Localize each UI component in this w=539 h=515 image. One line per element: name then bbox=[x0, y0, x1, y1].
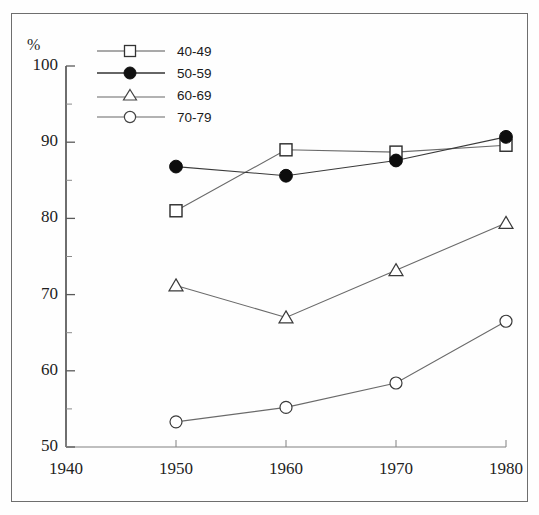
marker-open-triangle bbox=[389, 264, 403, 276]
y-axis-ticks bbox=[66, 66, 75, 447]
series-line-70-79 bbox=[176, 321, 506, 422]
x-tick-label-1980: 1980 bbox=[471, 459, 539, 479]
y-tick-label-90: 90 bbox=[14, 131, 58, 151]
chart-figure: % 40-49 50-59 60-69 bbox=[0, 0, 539, 515]
marker-open-circle bbox=[170, 416, 182, 428]
marker-filled-circle bbox=[390, 154, 403, 167]
marker-filled-circle bbox=[280, 169, 293, 182]
y-tick-label-60: 60 bbox=[14, 360, 58, 380]
y-tick-label-50: 50 bbox=[14, 436, 58, 456]
y-tick-label-100: 100 bbox=[14, 55, 58, 75]
y-tick-label-80: 80 bbox=[14, 207, 58, 227]
series-line-50-59 bbox=[176, 137, 506, 176]
marker-filled-circle bbox=[170, 160, 183, 173]
marker-open-circle bbox=[500, 315, 512, 327]
plot-area bbox=[0, 0, 539, 515]
x-tick-label-1940: 1940 bbox=[31, 459, 101, 479]
marker-open-triangle bbox=[279, 311, 293, 323]
marker-open-square bbox=[170, 205, 182, 217]
y-tick-label-70: 70 bbox=[14, 284, 58, 304]
x-tick-label-1970: 1970 bbox=[361, 459, 431, 479]
marker-open-square bbox=[280, 144, 292, 156]
series-line-40-49 bbox=[176, 145, 506, 211]
series-markers bbox=[169, 130, 513, 427]
x-tick-label-1960: 1960 bbox=[251, 459, 321, 479]
series-line-60-69 bbox=[176, 223, 506, 317]
marker-open-triangle bbox=[169, 279, 183, 291]
x-tick-label-1950: 1950 bbox=[141, 459, 211, 479]
marker-open-triangle bbox=[499, 216, 513, 228]
axis-lines bbox=[66, 66, 506, 447]
marker-filled-circle bbox=[500, 130, 513, 143]
marker-open-circle bbox=[280, 401, 292, 413]
series-lines bbox=[176, 137, 506, 422]
marker-open-circle bbox=[390, 377, 402, 389]
x-axis-ticks bbox=[66, 440, 506, 447]
